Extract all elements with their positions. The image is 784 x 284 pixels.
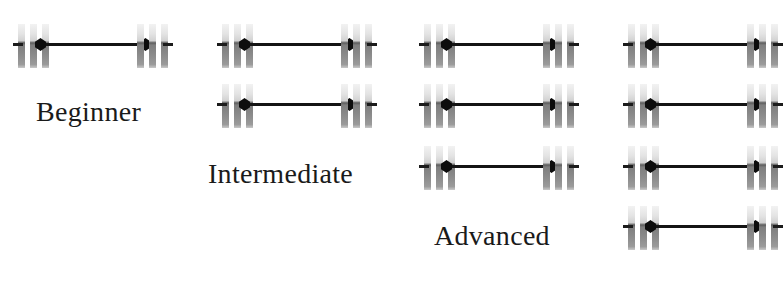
weight-plate (543, 24, 550, 68)
barbell-expert-4 (628, 206, 778, 250)
weight-stack-right (137, 24, 168, 68)
weight-plate (628, 84, 635, 128)
weight-plate (161, 24, 168, 68)
weight-stack-right (543, 146, 574, 190)
weight-plate (759, 24, 766, 68)
barbell-bar (244, 43, 350, 46)
barbell-bar (650, 103, 756, 106)
weight-plate (759, 206, 766, 250)
weight-plate (424, 146, 431, 190)
weight-plate (424, 24, 431, 68)
barbell-progression-figure: Beginner (0, 0, 784, 284)
weight-plate (771, 84, 778, 128)
weight-plate (341, 24, 348, 68)
bar-shaft-stub (569, 103, 579, 106)
bar-shaft-stub (217, 43, 227, 46)
barbell-beginner-1 (18, 24, 168, 68)
bar-shaft-stub (419, 43, 429, 46)
column-label-intermediate: Intermediate (208, 158, 353, 190)
weight-plate (137, 24, 144, 68)
bar-shaft-stub (569, 43, 579, 46)
barbell-expert-3 (628, 146, 778, 190)
weight-stack-right (747, 84, 778, 128)
weight-plate (222, 24, 229, 68)
bar-shaft-stub (623, 43, 633, 46)
barbell-bar (446, 103, 552, 106)
barbell-bar (650, 165, 756, 168)
barbell-bar (650, 43, 756, 46)
bar-shaft-stub (623, 103, 633, 106)
weight-plate (353, 24, 360, 68)
bar-shaft-stub (773, 103, 783, 106)
weight-plate (567, 84, 574, 128)
barbell-expert-2 (628, 84, 778, 128)
weight-plate (222, 84, 229, 128)
weight-stack-right (747, 24, 778, 68)
weight-plate (747, 24, 754, 68)
weight-plate (18, 24, 25, 68)
bar-shaft-stub (569, 165, 579, 168)
weight-plate (771, 206, 778, 250)
bar-shaft-stub (623, 165, 633, 168)
column-label-beginner: Beginner (36, 96, 141, 128)
barbell-bar (40, 43, 146, 46)
barbell-expert-1 (628, 24, 778, 68)
weight-stack-right (543, 24, 574, 68)
weight-stack-right (341, 84, 372, 128)
weight-plate (555, 146, 562, 190)
bar-shaft-stub (367, 43, 377, 46)
barbell-intermediate-1 (222, 24, 372, 68)
weight-plate (149, 24, 156, 68)
weight-plate (747, 84, 754, 128)
barbell-bar (446, 165, 552, 168)
bar-shaft-stub (419, 103, 429, 106)
weight-plate (771, 24, 778, 68)
barbell-intermediate-2 (222, 84, 372, 128)
weight-plate (747, 206, 754, 250)
weight-plate (424, 84, 431, 128)
barbell-bar (650, 225, 756, 228)
bar-shaft-stub (217, 103, 227, 106)
weight-stack-right (747, 146, 778, 190)
barbell-advanced-1 (424, 24, 574, 68)
bar-shaft-stub (13, 43, 23, 46)
weight-plate (759, 84, 766, 128)
weight-plate (747, 146, 754, 190)
weight-plate (567, 146, 574, 190)
weight-plate (759, 146, 766, 190)
weight-plate (341, 84, 348, 128)
weight-plate (628, 24, 635, 68)
weight-plate (628, 146, 635, 190)
weight-plate (555, 24, 562, 68)
weight-plate (567, 24, 574, 68)
bar-shaft-stub (163, 43, 173, 46)
weight-plate (628, 206, 635, 250)
bar-shaft-stub (367, 103, 377, 106)
weight-plate (365, 24, 372, 68)
weight-plate (771, 146, 778, 190)
bar-shaft-stub (773, 165, 783, 168)
weight-plate (365, 84, 372, 128)
weight-stack-right (341, 24, 372, 68)
weight-stack-right (747, 206, 778, 250)
bar-shaft-stub (773, 43, 783, 46)
barbell-advanced-2 (424, 84, 574, 128)
weight-plate (543, 146, 550, 190)
weight-plate (543, 84, 550, 128)
weight-stack-right (543, 84, 574, 128)
barbell-bar (446, 43, 552, 46)
column-label-advanced: Advanced (434, 220, 550, 252)
weight-plate (353, 84, 360, 128)
bar-shaft-stub (623, 225, 633, 228)
bar-shaft-stub (419, 165, 429, 168)
barbell-bar (244, 103, 350, 106)
weight-plate (555, 84, 562, 128)
bar-shaft-stub (773, 225, 783, 228)
barbell-advanced-3 (424, 146, 574, 190)
